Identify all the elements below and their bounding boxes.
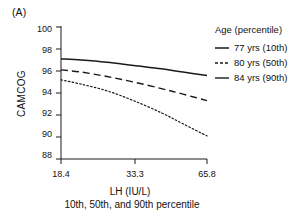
legend-item-80-yrs[interactable]: 80 yrs (50th) xyxy=(215,55,305,70)
legend-title: Age (percentile) xyxy=(215,24,305,35)
legend-item-label: 77 yrs (10th) xyxy=(234,42,287,53)
legend-swatch-dotted-icon xyxy=(215,74,229,82)
legend-item-label: 80 yrs (50th) xyxy=(234,57,287,68)
legend-item-84-yrs[interactable]: 84 yrs (90th) xyxy=(215,70,305,85)
figure-panel-a: (A) CAMCOG 100 98 96 94 92 90 88 18.4 33… xyxy=(0,0,305,216)
legend: Age (percentile) 77 yrs (10th) 80 yrs (5… xyxy=(215,24,305,85)
legend-item-label: 84 yrs (90th) xyxy=(234,72,287,83)
series-line-80-yrs xyxy=(61,70,207,101)
series-line-84-yrs xyxy=(61,80,207,136)
legend-item-77-yrs[interactable]: 77 yrs (10th) xyxy=(215,40,305,55)
legend-swatch-dashed-icon xyxy=(215,59,229,67)
legend-swatch-solid-icon xyxy=(215,44,229,52)
